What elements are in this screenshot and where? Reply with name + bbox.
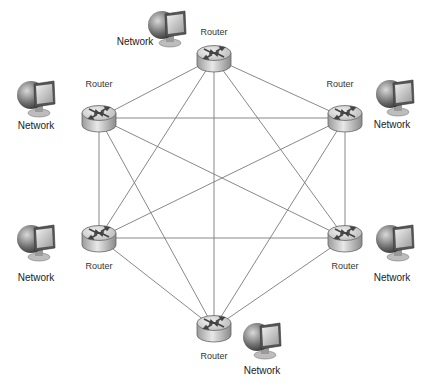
computer-icon bbox=[15, 221, 57, 263]
network-diagram: Router Router bbox=[0, 0, 426, 386]
router-top bbox=[195, 41, 233, 75]
network-label: Network bbox=[18, 120, 55, 131]
computer-icon bbox=[374, 76, 416, 118]
computer-icon bbox=[374, 221, 416, 263]
network-lower-left bbox=[15, 221, 57, 263]
router-icon bbox=[195, 41, 233, 75]
router-lower-right bbox=[326, 221, 364, 255]
router-icon bbox=[80, 221, 118, 255]
router-label: Router bbox=[200, 27, 227, 37]
router-label: Router bbox=[85, 261, 112, 271]
network-label: Network bbox=[117, 36, 154, 47]
network-label: Network bbox=[374, 119, 411, 130]
link-top-lower-right bbox=[214, 58, 345, 238]
router-icon bbox=[326, 101, 364, 135]
router-lower-left bbox=[80, 221, 118, 255]
router-label: Router bbox=[200, 351, 227, 361]
network-upper-right bbox=[374, 76, 416, 118]
router-label: Router bbox=[331, 261, 358, 271]
link-top-lower-left bbox=[99, 58, 214, 238]
router-label: Router bbox=[326, 79, 353, 89]
router-icon bbox=[195, 311, 233, 345]
network-bottom bbox=[241, 319, 283, 361]
computer-icon bbox=[241, 319, 283, 361]
network-lower-right bbox=[374, 221, 416, 263]
router-icon bbox=[326, 221, 364, 255]
router-bottom bbox=[195, 311, 233, 345]
network-upper-left bbox=[15, 77, 57, 119]
network-label: Network bbox=[18, 272, 55, 283]
network-label: Network bbox=[374, 272, 411, 283]
computer-icon bbox=[15, 77, 57, 119]
network-label: Network bbox=[244, 365, 281, 376]
router-upper-left bbox=[80, 101, 118, 135]
router-label: Router bbox=[85, 79, 112, 89]
router-upper-right bbox=[326, 101, 364, 135]
router-icon bbox=[80, 101, 118, 135]
